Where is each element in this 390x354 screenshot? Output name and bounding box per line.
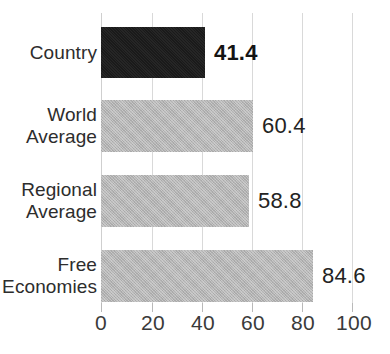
bar-country: [101, 27, 205, 78]
value-label-regional-average: 58.8: [258, 188, 302, 214]
bar-row-regional-average: Regional Average 58.8: [0, 175, 390, 227]
bar-free-economies: [101, 250, 313, 302]
bar-row-free-economies: Free Economies 84.6: [0, 250, 390, 302]
x-axis-tick-labels: 0 20 40 60 80 100: [0, 311, 390, 341]
bar-row-country: Country 41.4: [0, 27, 390, 78]
x-tick-label-0: 0: [95, 311, 107, 335]
category-label-world-average: World Average: [26, 104, 97, 148]
bar-chart: Country 41.4 World Average 60.4 Regional…: [0, 0, 390, 354]
bar-regional-average: [101, 175, 249, 227]
bar-row-world-average: World Average 60.4: [0, 100, 390, 152]
value-label-world-average: 60.4: [262, 113, 306, 139]
x-tick-label-20: 20: [141, 311, 165, 335]
x-tick-label-80: 80: [291, 311, 315, 335]
x-tick-label-100: 100: [336, 311, 372, 335]
value-label-country: 41.4: [214, 40, 258, 66]
category-label-country: Country: [30, 42, 97, 64]
x-tick-label-40: 40: [191, 311, 215, 335]
bar-world-average: [101, 100, 253, 152]
category-label-regional-average: Regional Average: [21, 179, 97, 223]
value-label-free-economies: 84.6: [322, 263, 366, 289]
plot-area: Country 41.4 World Average 60.4 Regional…: [0, 0, 390, 354]
x-tick-label-60: 60: [241, 311, 265, 335]
category-label-free-economies: Free Economies: [2, 254, 97, 298]
bar-rows: Country 41.4 World Average 60.4 Regional…: [0, 0, 390, 354]
